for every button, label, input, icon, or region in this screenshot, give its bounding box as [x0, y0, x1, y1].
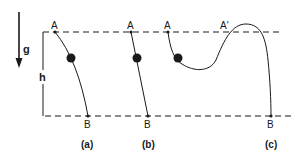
panel-a: A B (a)	[51, 20, 93, 150]
end-label: B	[267, 119, 274, 130]
ball-icon	[133, 54, 142, 63]
end-label: B	[84, 119, 91, 130]
start-label: A	[127, 20, 134, 31]
trajectory-diagram: g h A B (a) A B (b)	[0, 0, 299, 164]
point-b-icon	[269, 114, 272, 117]
start-label: A	[51, 20, 58, 31]
start-label: A	[164, 20, 171, 31]
gravity-label: g	[23, 43, 30, 55]
end-label: B	[144, 119, 151, 130]
gravity-arrow	[16, 12, 23, 68]
panel-caption: (b)	[142, 139, 155, 150]
ball-icon	[67, 54, 76, 63]
point-b-icon	[146, 114, 149, 117]
peak-label: A'	[220, 20, 229, 31]
panel-caption: (c)	[265, 139, 277, 150]
panel-b: A B (b)	[127, 20, 155, 150]
panel-c: A A' B (c)	[164, 20, 277, 150]
ball-icon	[174, 54, 183, 63]
arrowhead-icon	[16, 58, 23, 68]
point-b-icon	[86, 114, 89, 117]
panel-caption: (a)	[81, 139, 93, 150]
height-label: h	[39, 71, 46, 83]
